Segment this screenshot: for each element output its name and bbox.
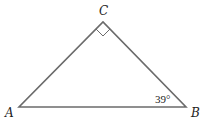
vertex-label-a: A	[4, 106, 14, 120]
angle-label-b: 39°	[155, 93, 170, 105]
vertex-label-c: C	[99, 4, 108, 18]
triangle-diagram: C A B 39°	[0, 0, 206, 122]
right-angle-marker	[96, 29, 110, 36]
vertex-label-b: B	[190, 106, 200, 120]
